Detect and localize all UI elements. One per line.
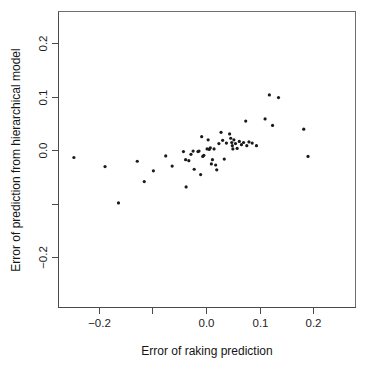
y-tick-label-2: 0.0 — [37, 143, 49, 159]
data-point — [214, 163, 217, 166]
y-axis-title: Error of prediction from hierarchical mo… — [9, 48, 23, 271]
data-point — [223, 157, 226, 160]
data-point — [72, 156, 75, 159]
data-point — [228, 132, 231, 135]
data-point — [192, 149, 195, 152]
data-point — [234, 142, 237, 145]
plot-panel-border — [59, 12, 356, 308]
data-point — [221, 139, 224, 142]
data-point — [255, 144, 258, 147]
x-tick-label-3: 0.1 — [253, 317, 269, 329]
x-axis-title: Error of raking prediction — [141, 344, 272, 358]
scatter-plot-figure: −0.20.00.10.2 −0.20.00.10.2 Error of rak… — [0, 0, 367, 372]
data-point — [182, 150, 185, 153]
data-point — [212, 147, 215, 150]
y-axis-tick-labels: −0.20.00.10.2 — [37, 36, 49, 269]
data-point — [277, 96, 280, 99]
data-point — [209, 146, 212, 149]
data-point — [236, 147, 239, 150]
data-point — [217, 142, 220, 145]
x-tick-label-0: −0.2 — [88, 317, 111, 329]
x-tick-label-2: 0.0 — [199, 317, 215, 329]
data-point — [202, 154, 205, 157]
data-points-layer — [72, 93, 309, 204]
y-tick-label-3: 0.1 — [37, 90, 49, 106]
data-point — [136, 160, 139, 163]
data-point — [187, 159, 190, 162]
data-point — [143, 180, 146, 183]
data-point — [242, 141, 245, 144]
x-tick-label-4: 0.2 — [306, 317, 322, 329]
data-point — [200, 135, 203, 138]
y-axis-ticks — [52, 44, 59, 258]
data-point — [302, 128, 305, 131]
plot-canvas: −0.20.00.10.2 −0.20.00.10.2 Error of rak… — [0, 0, 367, 372]
data-point — [225, 141, 228, 144]
data-point — [231, 144, 234, 147]
data-point — [164, 154, 167, 157]
data-point — [231, 147, 234, 150]
data-point — [215, 168, 218, 171]
data-point — [219, 131, 222, 134]
data-point — [171, 164, 174, 167]
data-point — [117, 201, 120, 204]
data-point — [232, 138, 235, 141]
data-point — [263, 117, 266, 120]
data-point — [211, 158, 214, 161]
x-axis-tick-labels: −0.20.00.10.2 — [88, 317, 321, 329]
data-point — [210, 162, 213, 165]
x-axis-ticks — [100, 308, 314, 315]
data-point — [306, 155, 309, 158]
data-point — [184, 158, 187, 161]
data-point — [152, 169, 155, 172]
data-point — [230, 141, 233, 144]
y-tick-label-4: 0.2 — [37, 36, 49, 52]
y-tick-label-0: −0.2 — [37, 246, 49, 269]
data-point — [193, 168, 196, 171]
data-point — [189, 153, 192, 156]
data-point — [238, 140, 241, 143]
data-point — [245, 144, 248, 147]
data-point — [229, 137, 232, 140]
data-point — [197, 149, 200, 152]
data-point — [268, 93, 271, 96]
data-point — [207, 138, 210, 141]
data-point — [185, 185, 188, 188]
data-point — [251, 141, 254, 144]
data-point — [247, 140, 250, 143]
data-point — [271, 124, 274, 127]
data-point — [103, 165, 106, 168]
data-point — [199, 173, 202, 176]
data-point — [244, 120, 247, 123]
